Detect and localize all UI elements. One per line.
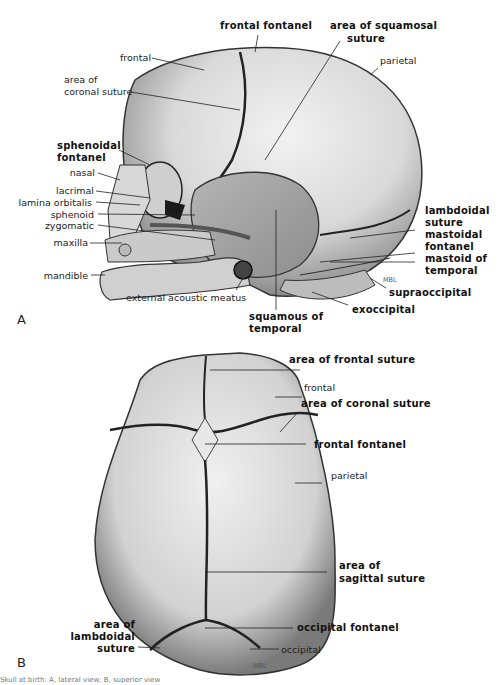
panel-letter-a: A [17,312,26,327]
label-sagittal-suture-line2: sagittal suture [339,573,425,585]
label-frontal-a: frontal [120,52,151,63]
label-parietal-b: parietal [331,470,367,481]
artist-signature-a: MBL [383,276,397,284]
lateral-skull [90,35,422,310]
label-coronal-suture-b: area of coronal suture [301,398,431,410]
label-frontal-fontanel-a: frontal fontanel [220,20,312,32]
label-zygomatic: zygomatic [30,220,94,231]
label-occipital-b: occipital [281,644,321,655]
label-lambdoidal-suture-a-line1: lambdoidal [425,205,490,217]
label-mastoidal-fontanel-line2: fontanel [425,241,474,253]
label-coronal-line1: area of [64,74,97,85]
label-supraoccipital: supraoccipital [389,287,471,299]
label-maxilla: maxilla [30,237,88,248]
label-frontal-suture: area of frontal suture [289,354,415,366]
label-mastoidal-fontanel-line1: mastoidal [425,229,482,241]
label-parietal-a: parietal [380,55,416,66]
label-squamous-of-temporal-line2: temporal [249,323,302,335]
label-squamous-of-temporal-line1: squamous of [249,311,323,323]
label-lambdoidal-suture-a-line2: suture [425,217,463,229]
label-exoccipital: exoccipital [352,304,415,316]
label-lamina-orbitalis: lamina orbitalis [10,197,92,208]
label-nasal: nasal [40,167,95,178]
label-mandible: mandible [20,270,88,281]
label-mastoid-of-temporal-line1: mastoid of [425,253,487,265]
label-squamosal-suture-line1: area of squamosal [330,20,437,32]
label-coronal-line2: coronal suture [64,86,132,97]
label-occipital-fontanel: occipital fontanel [297,622,399,634]
label-frontal-fontanel-b: frontal fontanel [314,439,406,451]
label-lambdoidal-b-line1: area of [60,619,135,631]
label-frontal-b: frontal [304,382,335,393]
label-sphenoidal-fontanel-line1: sphenoidal [57,140,121,152]
label-lambdoidal-b-line3: suture [60,643,135,655]
label-squamosal-suture-line2: suture [347,33,385,45]
panel-letter-b: B [17,655,26,670]
label-mastoid-of-temporal-line2: temporal [425,265,478,277]
artist-signature-b: MBL [253,662,267,670]
label-sagittal-suture-line1: area of [339,560,380,572]
label-lacrimal: lacrimal [30,185,94,196]
label-sphenoid: sphenoid [30,209,94,220]
label-sphenoidal-fontanel-line2: fontanel [57,152,106,164]
label-lambdoidal-b-line2: lambdoidal [60,631,135,643]
figure-caption: Skull at birth: A, lateral view; B, supe… [0,676,160,684]
label-external-acoustic-meatus: external acoustic meatus [126,292,246,303]
